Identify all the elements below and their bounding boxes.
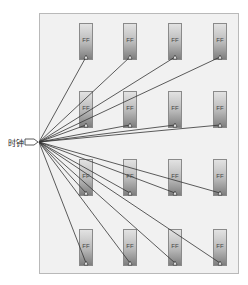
clock-wire	[39, 142, 130, 193]
clock-input-icon	[128, 191, 132, 195]
clock-wire	[39, 142, 86, 193]
clock-input-icon	[128, 55, 132, 59]
clock-wires	[0, 0, 248, 285]
clock-input-icon	[84, 261, 88, 265]
clock-input-icon	[218, 55, 222, 59]
clock-wire	[39, 142, 175, 193]
clock-wire	[39, 57, 220, 142]
clock-wire	[39, 125, 175, 142]
clock-wire	[39, 142, 220, 193]
clock-input-icon	[173, 191, 177, 195]
clock-input-icon	[173, 55, 177, 59]
clock-wire	[39, 142, 86, 263]
clock-input-icon	[84, 55, 88, 59]
clock-wire	[39, 57, 130, 142]
clock-wire	[39, 125, 220, 142]
clock-input-icon	[84, 123, 88, 127]
clock-wire	[39, 142, 130, 263]
clock-wire	[39, 57, 86, 142]
clock-wire	[39, 142, 175, 263]
clock-tree-diagram: 时钟 FFFFFFFFFFFFFFFFFFFFFFFFFFFFFFFF	[0, 0, 248, 285]
clock-port-icon	[25, 139, 38, 145]
clock-wire	[39, 142, 220, 263]
